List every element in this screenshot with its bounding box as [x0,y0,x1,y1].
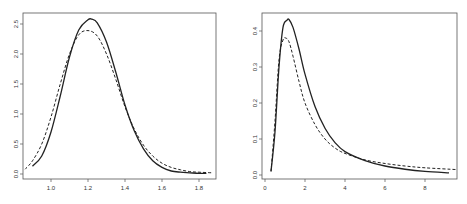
y-tick-label: 0.0 [13,169,19,178]
x-tick-label: 1.4 [121,185,130,191]
plot-frame [262,13,457,179]
x-tick-label: 6 [383,185,387,191]
y-tick-label: 0.2 [252,98,258,107]
x-tick-label: 8 [423,185,427,191]
y-tick-label: 2.5 [13,19,19,28]
y-tick-label: 0.4 [252,26,258,35]
y-tick-label: 0.3 [252,62,258,71]
dashed-curve [271,38,457,172]
dashed-curve [25,31,212,173]
y-tick-label: 0.0 [252,170,258,179]
plot-frame [23,13,216,179]
plot-panel-2: 024680.00.10.20.30.4 [252,13,457,191]
solid-curve [33,19,207,174]
x-tick-label: 1.0 [47,185,56,191]
y-tick-label: 1.5 [13,79,19,88]
x-tick-label: 4 [343,185,347,191]
x-tick-label: 2 [303,185,307,191]
y-tick-label: 1.0 [13,109,19,118]
chart-canvas: 1.01.21.41.61.80.00.51.01.52.02.5024680.… [0,0,467,204]
solid-curve [271,19,449,173]
x-tick-label: 1.2 [84,185,93,191]
plot-panel-1: 1.01.21.41.61.80.00.51.01.52.02.5 [13,13,216,191]
y-tick-label: 0.5 [13,139,19,148]
x-tick-label: 0 [263,185,267,191]
y-tick-label: 0.1 [252,134,258,143]
x-tick-label: 1.6 [158,185,167,191]
y-tick-label: 2.0 [13,49,19,58]
x-tick-label: 1.8 [195,185,204,191]
